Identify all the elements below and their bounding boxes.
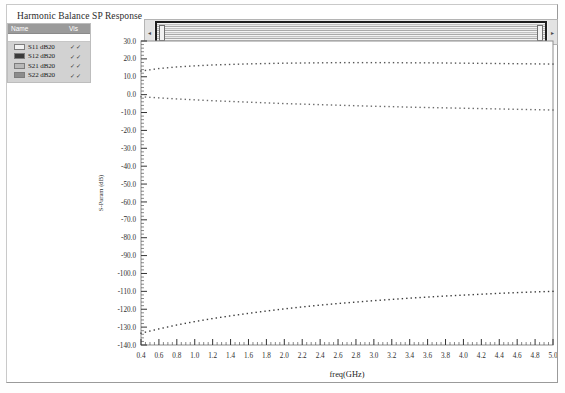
- data-point: [176, 66, 177, 67]
- data-point: [406, 298, 407, 299]
- data-point: [446, 295, 447, 296]
- x-axis-title: freq(GHz): [330, 370, 365, 379]
- data-point: [517, 109, 518, 110]
- data-point: [495, 63, 496, 64]
- data-point: [282, 63, 283, 64]
- data-point: [202, 65, 203, 66]
- y-axis-tick-label: -90.0: [121, 252, 136, 260]
- data-point: [464, 294, 465, 295]
- s-parameter-chart[interactable]: 30.020.010.00.0-10.0-20.0-30.0-40.0-50.0…: [95, 33, 557, 381]
- data-point: [193, 65, 194, 66]
- data-point: [140, 333, 141, 334]
- data-point: [419, 62, 420, 63]
- data-point: [193, 321, 194, 322]
- data-point: [185, 66, 186, 67]
- list-item[interactable]: S22 dB20 ✓✓: [8, 71, 90, 81]
- data-point: [459, 107, 460, 108]
- data-point: [380, 62, 381, 63]
- data-point: [326, 304, 327, 305]
- data-point: [486, 63, 487, 64]
- data-point: [216, 64, 217, 65]
- data-point: [526, 63, 527, 64]
- data-point: [406, 106, 407, 107]
- data-point: [149, 330, 150, 331]
- data-point: [371, 62, 372, 63]
- data-point: [216, 317, 217, 318]
- data-point: [455, 107, 456, 108]
- y-axis-title: S-Param (dB): [97, 175, 105, 211]
- data-point: [437, 296, 438, 297]
- data-point: [375, 62, 376, 63]
- y-axis-tick-label: -10.0: [121, 109, 136, 117]
- visibility-checkmark[interactable]: ✓✓: [70, 53, 81, 60]
- visibility-checkmark[interactable]: ✓✓: [70, 72, 81, 79]
- data-point: [424, 107, 425, 108]
- visibility-checkmark[interactable]: ✓✓: [70, 62, 81, 69]
- legend-row-list: S11 dB20 ✓✓ S12 dB20 ✓✓ S21 dB20 ✓✓ S22 …: [8, 42, 90, 80]
- trace-color-swatch: [14, 44, 25, 50]
- legend-blank-row: [8, 34, 90, 42]
- x-axis-tick-label: 2.4: [316, 352, 325, 360]
- data-point: [468, 294, 469, 295]
- data-point: [326, 62, 327, 63]
- data-point: [260, 102, 261, 103]
- data-point: [446, 62, 447, 63]
- data-point: [539, 291, 540, 292]
- data-point: [264, 311, 265, 312]
- x-axis-tick-label: 0.6: [154, 352, 163, 360]
- plot-window-frame: Harmonic Balance SP Response Name Vis S1…: [6, 4, 558, 383]
- y-axis-tick-label: -50.0: [121, 181, 136, 189]
- data-point: [162, 327, 163, 328]
- data-point: [517, 292, 518, 293]
- data-point: [291, 103, 292, 104]
- trace-color-swatch: [14, 53, 25, 59]
- data-point: [543, 291, 544, 292]
- data-point: [229, 315, 230, 316]
- list-item[interactable]: S11 dB20 ✓✓: [8, 42, 90, 52]
- data-point: [207, 319, 208, 320]
- data-point: [224, 101, 225, 102]
- data-point: [247, 313, 248, 314]
- x-axis-tick-label: 4.8: [531, 352, 540, 360]
- data-point: [264, 63, 265, 64]
- data-point: [481, 63, 482, 64]
- data-point: [189, 99, 190, 100]
- data-point: [154, 68, 155, 69]
- data-point: [255, 312, 256, 313]
- data-point: [189, 65, 190, 66]
- data-point: [526, 292, 527, 293]
- application-window: Harmonic Balance SP Response Name Vis S1…: [0, 0, 565, 393]
- data-point: [442, 62, 443, 63]
- data-point: [450, 295, 451, 296]
- data-point: [495, 293, 496, 294]
- data-point: [242, 101, 243, 102]
- data-point: [450, 107, 451, 108]
- data-point: [242, 63, 243, 64]
- data-point: [366, 105, 367, 106]
- data-point: [349, 302, 350, 303]
- data-point: [149, 69, 150, 70]
- visibility-checkmark[interactable]: ✓✓: [70, 43, 81, 50]
- data-point: [198, 65, 199, 66]
- x-axis-tick-label: 3.2: [387, 352, 396, 360]
- data-point: [171, 67, 172, 68]
- legend-column-name: Name: [11, 25, 28, 32]
- trace-legend-panel[interactable]: Name Vis S11 dB20 ✓✓ S12 dB20 ✓✓ S21 dB2: [7, 23, 91, 83]
- data-point: [424, 62, 425, 63]
- legend-item-label: S21 dB20: [28, 62, 55, 70]
- data-point: [251, 63, 252, 64]
- data-point: [477, 63, 478, 64]
- list-item[interactable]: S21 dB20 ✓✓: [8, 61, 90, 71]
- data-point: [362, 62, 363, 63]
- list-item[interactable]: S12 dB20 ✓✓: [8, 52, 90, 62]
- data-point: [207, 100, 208, 101]
- data-point: [300, 306, 301, 307]
- chart-plot-area[interactable]: 30.020.010.00.0-10.0-20.0-30.0-40.0-50.0…: [95, 33, 557, 381]
- data-point: [145, 331, 146, 332]
- x-axis-tick-label: 3.6: [423, 352, 432, 360]
- data-point: [242, 313, 243, 314]
- data-point: [384, 62, 385, 63]
- data-point: [295, 307, 296, 308]
- data-point: [331, 62, 332, 63]
- data-point: [530, 63, 531, 64]
